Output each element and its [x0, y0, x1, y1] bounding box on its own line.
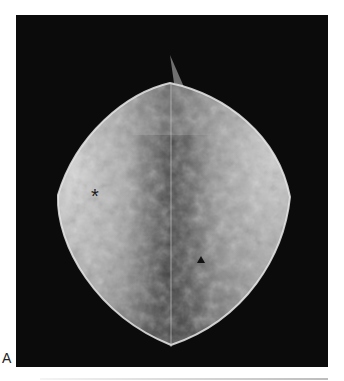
- panel-label: A: [2, 350, 11, 366]
- divider-line: [40, 378, 328, 380]
- breast-tissue-graphic: [16, 15, 328, 367]
- mammogram-image: [16, 15, 328, 367]
- asterisk-marker: *: [91, 186, 99, 206]
